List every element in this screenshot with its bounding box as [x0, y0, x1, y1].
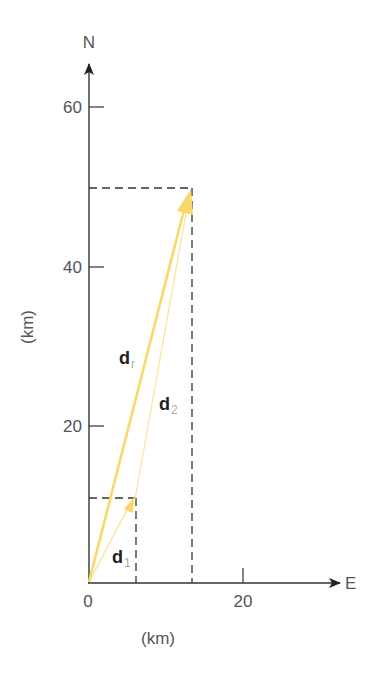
x-tick-0: 0 [83, 592, 92, 611]
vector-diagram: 60 40 20 0 20 N E (km) (km) d r d 2 d 1 [0, 0, 376, 679]
vector-d2 [135, 196, 189, 499]
y-tick-60: 60 [63, 98, 82, 117]
y-tick-40: 40 [63, 258, 82, 277]
svg-text:r: r [131, 357, 135, 371]
x-axis-unit: (km) [141, 629, 175, 648]
x-axis-name-east: E [345, 574, 356, 593]
y-axis-name-north: N [83, 33, 95, 52]
svg-text:2: 2 [171, 403, 178, 417]
x-tick-20: 20 [234, 592, 253, 611]
axis-ticks [89, 107, 243, 583]
vector-dr [89, 189, 193, 582]
label-d-r: d r [119, 348, 135, 371]
svg-text:1: 1 [124, 556, 131, 570]
svg-text:d: d [159, 394, 170, 414]
svg-text:d: d [112, 547, 123, 567]
label-d-2: d 2 [159, 394, 178, 417]
y-tick-20: 20 [63, 417, 82, 436]
svg-text:d: d [119, 348, 130, 368]
label-d-1: d 1 [112, 547, 131, 570]
y-axis-unit: (km) [18, 310, 37, 344]
